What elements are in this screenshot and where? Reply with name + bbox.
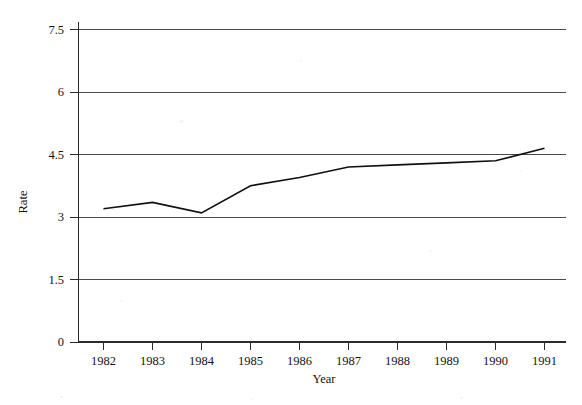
x-tick-label-1989: 1989 <box>434 354 459 368</box>
x-tick-label-1987: 1987 <box>336 354 361 368</box>
y-tick-label-3: 3 <box>58 210 64 224</box>
chart-background <box>0 0 582 405</box>
x-tick-label-1990: 1990 <box>483 354 508 368</box>
y-tick-label-4-5: 4.5 <box>48 148 64 162</box>
x-tick-label-1984: 1984 <box>189 354 215 368</box>
x-tick-label-1986: 1986 <box>287 354 312 368</box>
x-axis-title: Year <box>312 372 336 386</box>
y-tick-label-7-5: 7.5 <box>48 23 64 37</box>
x-tick-label-1991: 1991 <box>532 354 557 368</box>
chart-figure: 7.5 6 4.5 3 1.5 0 1982 1983 1984 1985 <box>0 0 582 405</box>
x-tick-label-1985: 1985 <box>238 354 263 368</box>
x-tick-label-1983: 1983 <box>140 354 165 368</box>
x-tick-label-1982: 1982 <box>91 354 116 368</box>
x-tick-label-1988: 1988 <box>385 354 410 368</box>
line-chart: 7.5 6 4.5 3 1.5 0 1982 1983 1984 1985 <box>0 0 582 405</box>
y-tick-label-6: 6 <box>58 85 64 99</box>
y-tick-label-0: 0 <box>58 335 64 349</box>
y-axis-title: Rate <box>16 190 30 213</box>
y-tick-label-1-5: 1.5 <box>48 273 64 287</box>
